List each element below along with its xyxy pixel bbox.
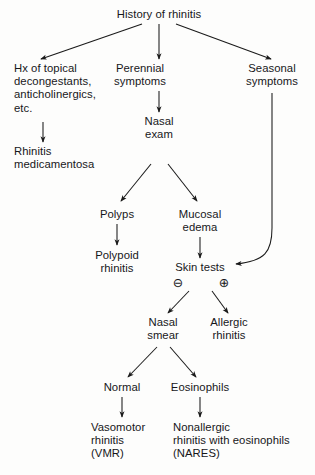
- node-perennial-symptoms: Perennial symptoms: [114, 62, 166, 88]
- node-nasal-exam-line-1: Nasal: [144, 115, 173, 128]
- node-allergic-rhinitis-line-1: Allergic: [210, 316, 247, 329]
- node-rhinitis-medicamentosa-line-2: medicamentosa: [14, 158, 94, 171]
- node-nasal-smear-line-2: smear: [147, 329, 179, 342]
- node-seasonal-symptoms-line-1: Seasonal: [246, 62, 298, 75]
- node-polypoid-rhinitis: Polypoid rhinitis: [95, 249, 139, 275]
- edge-nasal-smear-to-eosinophils: [170, 347, 196, 377]
- node-nonallergic-rhinitis-line-1: Nonallergic: [173, 421, 290, 434]
- node-perennial-symptoms-line-2: symptoms: [114, 75, 166, 88]
- edge-root-to-hx-topical: [41, 24, 142, 59]
- node-nasal-exam: Nasal exam: [144, 115, 173, 141]
- node-normal: Normal: [104, 381, 141, 394]
- node-normal-line-1: Normal: [104, 381, 141, 394]
- edge-seasonal-to-skin-tests: [236, 93, 272, 264]
- edge-nasal-exam-to-mucosal-edema: [168, 164, 197, 201]
- node-hx-of-topical-line-3: anticholinergics,: [14, 88, 96, 101]
- node-nonallergic-rhinitis-line-3: (NARES): [173, 447, 290, 460]
- node-rhinitis-medicamentosa: Rhinitis medicamentosa: [14, 145, 94, 171]
- node-allergic-rhinitis-line-2: rhinitis: [210, 329, 247, 342]
- node-mucosal-edema-line-1: Mucosal: [179, 208, 221, 221]
- edge-skin-tests-negative-to-nasal-smear: [168, 291, 189, 313]
- node-rhinitis-medicamentosa-line-1: Rhinitis: [14, 145, 94, 158]
- node-skin-tests: Skin tests: [175, 261, 224, 274]
- rhinitis-flowchart: History of rhinitis Hx of topical decong…: [0, 0, 315, 475]
- skin-test-positive-icon: ⊕: [219, 277, 229, 290]
- node-vasomotor-rhinitis-line-3: (VMR): [91, 447, 145, 460]
- skin-test-negative-icon: ⊖: [173, 277, 183, 290]
- node-hx-of-topical-line-4: etc.: [14, 102, 96, 115]
- node-hx-of-topical: Hx of topical decongestants, anticholine…: [14, 62, 96, 115]
- node-nonallergic-rhinitis: Nonallergic rhinitis with eosinophils (N…: [173, 421, 290, 461]
- node-allergic-rhinitis: Allergic rhinitis: [210, 316, 247, 342]
- node-skin-tests-line-1: Skin tests: [175, 261, 224, 274]
- node-polypoid-rhinitis-line-1: Polypoid: [95, 249, 139, 262]
- edge-root-to-seasonal: [176, 24, 271, 59]
- node-nonallergic-rhinitis-line-2: rhinitis with eosinophils: [173, 434, 290, 447]
- node-eosinophils: Eosinophils: [171, 381, 229, 394]
- node-hx-of-topical-line-2: decongestants,: [14, 75, 96, 88]
- node-polyps: Polyps: [100, 208, 134, 221]
- node-polyps-line-1: Polyps: [100, 208, 134, 221]
- node-vasomotor-rhinitis-line-1: Vasomotor: [91, 421, 145, 434]
- node-mucosal-edema: Mucosal edema: [179, 208, 221, 234]
- node-vasomotor-rhinitis: Vasomotor rhinitis (VMR): [91, 421, 145, 461]
- node-eosinophils-line-1: Eosinophils: [171, 381, 229, 394]
- node-perennial-symptoms-line-1: Perennial: [114, 62, 166, 75]
- node-hx-of-topical-line-1: Hx of topical: [14, 62, 96, 75]
- node-polypoid-rhinitis-line-2: rhinitis: [95, 262, 139, 275]
- node-nasal-smear: Nasal smear: [147, 316, 179, 342]
- node-nasal-exam-line-2: exam: [144, 128, 173, 141]
- node-seasonal-symptoms: Seasonal symptoms: [246, 62, 298, 88]
- edge-nasal-exam-to-polyps: [121, 164, 151, 201]
- node-nasal-smear-line-1: Nasal: [147, 316, 179, 329]
- node-history-of-rhinitis-line-1: History of rhinitis: [117, 8, 201, 21]
- edge-nasal-smear-to-normal: [128, 347, 157, 377]
- node-vasomotor-rhinitis-line-2: rhinitis: [91, 434, 145, 447]
- node-seasonal-symptoms-line-2: symptoms: [246, 75, 298, 88]
- node-history-of-rhinitis: History of rhinitis: [117, 8, 201, 21]
- node-mucosal-edema-line-2: edema: [179, 221, 221, 234]
- edge-skin-tests-positive-to-allergic-rhinitis: [212, 291, 228, 313]
